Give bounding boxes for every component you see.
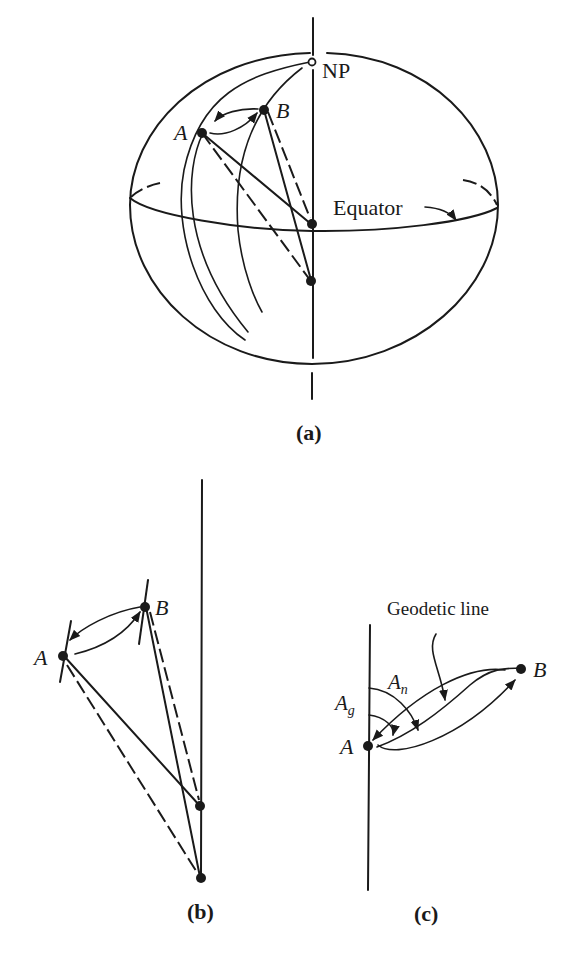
equator-axis-point xyxy=(307,219,317,229)
equator-label: Equator xyxy=(333,195,403,220)
azimuth-n-letter: A xyxy=(386,670,401,694)
meridian-a-left xyxy=(191,133,248,332)
chord-a-to-equator-point xyxy=(202,133,311,224)
point-b-label: B xyxy=(155,595,168,620)
axis-b xyxy=(201,480,202,877)
meridian-through-a xyxy=(181,62,310,340)
azimuth-n-subscript: n xyxy=(401,682,408,697)
chord-a-to-upper-point xyxy=(64,656,200,806)
geodetic-line-label: Geodetic line xyxy=(387,598,489,619)
meridian-line-c xyxy=(368,625,370,890)
panel-c-azimuths: Geodetic line An Ag A B (c) xyxy=(333,598,546,926)
panel-a-ellipsoid: NP A B Equator (a) xyxy=(130,18,498,445)
azimuth-g-letter: A xyxy=(333,691,348,715)
equator-pointer-arrow xyxy=(425,207,456,220)
caption-b: (b) xyxy=(187,899,214,924)
north-pole-marker xyxy=(309,59,316,66)
chord-b-to-lower-point xyxy=(146,607,200,877)
point-b-marker xyxy=(259,105,269,115)
point-b-label: B xyxy=(533,657,546,682)
azimuth-g-label: Ag xyxy=(333,691,355,718)
point-a-marker xyxy=(197,128,207,138)
curve-a-to-b xyxy=(210,113,257,134)
azimuth-n-arc xyxy=(369,688,418,730)
point-a-marker xyxy=(363,741,373,751)
caption-a: (a) xyxy=(296,420,322,445)
geodesy-figure: NP A B Equator (a) A B (b) Geodetic line xyxy=(0,0,568,955)
chord-b-to-upper-point xyxy=(150,612,199,800)
point-b-marker xyxy=(516,664,526,674)
chord-a-to-lower-point xyxy=(202,133,310,280)
azimuth-n-label: An xyxy=(386,670,408,697)
point-a-label: A xyxy=(32,645,48,670)
point-b-marker xyxy=(140,602,150,612)
chord-b-to-lower-point xyxy=(264,110,311,280)
azimuth-g-subscript: g xyxy=(348,703,355,718)
equator-back-right xyxy=(463,180,497,205)
lower-axis-point xyxy=(196,873,206,883)
point-b-label: B xyxy=(276,98,289,123)
curve-b-to-a xyxy=(70,607,140,640)
point-a-marker xyxy=(58,651,68,661)
upper-axis-point xyxy=(195,801,205,811)
curve-a-to-b xyxy=(75,612,140,654)
equator-back-left xyxy=(131,183,160,197)
panel-b-detail: A B (b) xyxy=(32,480,214,924)
np-label: NP xyxy=(322,58,350,83)
point-a-label: A xyxy=(172,120,188,145)
lower-axis-point xyxy=(306,276,316,286)
caption-c: (c) xyxy=(414,901,438,926)
point-a-label: A xyxy=(338,734,354,759)
